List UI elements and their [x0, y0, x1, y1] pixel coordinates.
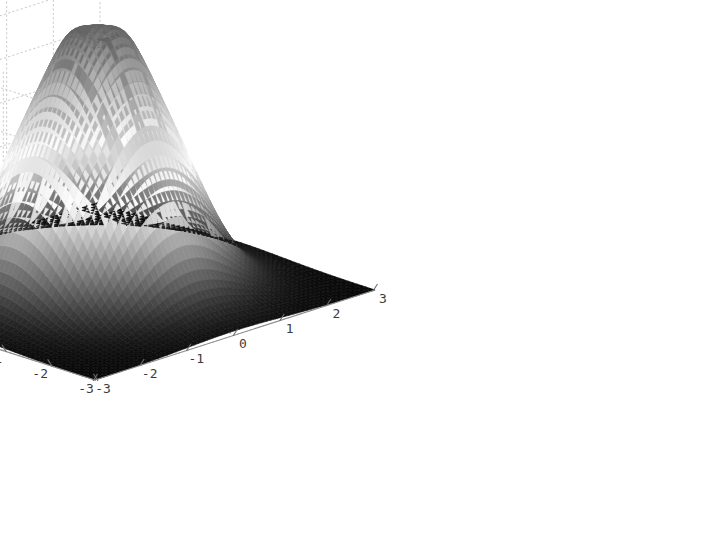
x-tick-label-6: 3: [379, 291, 387, 306]
surface-plot-figure: 00.050.10.150.20.250.33210-1-2-3-3-2-101…: [0, 0, 713, 540]
x-tick-label-1: -2: [142, 366, 158, 381]
y-tick-label-4: -1: [0, 351, 2, 366]
y-tick-label-6: -3: [78, 381, 94, 396]
x-tick-label-5: 2: [332, 306, 340, 321]
y-tick-label-5: -2: [32, 366, 48, 381]
x-tick-label-0: -3: [95, 381, 111, 396]
x-tick-label-2: -1: [189, 351, 205, 366]
x-tick-label-4: 1: [286, 321, 294, 336]
surface-plot-canvas: 00.050.10.150.20.250.33210-1-2-3-3-2-101…: [0, 0, 713, 540]
surface-mesh: [0, 25, 375, 380]
x-tick-label-3: 0: [239, 336, 247, 351]
